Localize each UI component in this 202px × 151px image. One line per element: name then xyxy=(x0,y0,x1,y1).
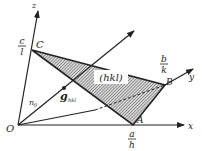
a-intercept-num: a xyxy=(129,129,134,139)
hkl-plane xyxy=(32,50,165,125)
g-vector-label: g xyxy=(60,90,68,103)
plane-label: (hkl) xyxy=(99,72,123,83)
normal-subscript: 0 xyxy=(34,102,38,108)
point-a-label: A xyxy=(136,115,144,125)
z-axis-label: z xyxy=(31,1,37,10)
y-axis-label: y xyxy=(188,72,195,82)
c-intercept-num: c xyxy=(19,36,24,46)
miller-plane-diagram: (hkl) x y z O A B C c l b k a h g hkl n … xyxy=(0,0,202,151)
point-c-label: C xyxy=(36,39,44,50)
x-axis-label: x xyxy=(188,121,193,131)
b-intercept-num: b xyxy=(161,54,167,64)
y-axis-visible-1 xyxy=(18,110,95,125)
origin-label: O xyxy=(6,123,14,134)
point-b-label: B xyxy=(165,77,173,87)
g-vector-subscript: hkl xyxy=(68,97,76,103)
b-intercept-den: k xyxy=(161,65,166,75)
a-intercept-den: h xyxy=(129,140,135,150)
c-intercept-den: l xyxy=(21,47,24,57)
